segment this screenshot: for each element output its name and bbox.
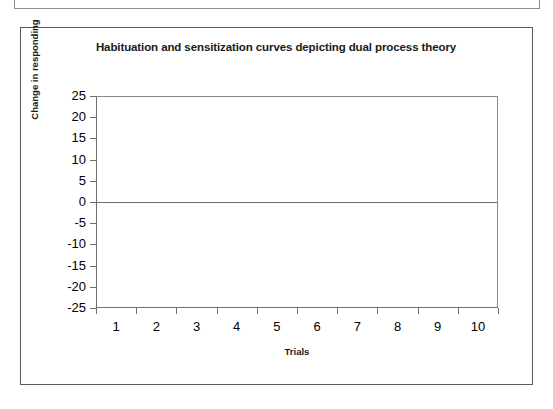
y-tick-label: -20 [67, 278, 86, 296]
x-tick-label: 1 [96, 318, 136, 336]
x-tick-mark [337, 308, 338, 314]
x-tick-label: 6 [297, 318, 337, 336]
x-tick-mark [217, 308, 218, 314]
x-tick-label: 5 [257, 318, 297, 336]
y-tick-label: -25 [67, 299, 86, 317]
figure-frame: Habituation and sensitization curves dep… [20, 27, 533, 385]
x-tick-mark [377, 308, 378, 314]
x-tick-label: 8 [378, 318, 418, 336]
y-tick-label: 5 [79, 172, 86, 190]
x-tick-mark [458, 308, 459, 314]
x-tick-label: 7 [337, 318, 377, 336]
x-tick-label: 10 [458, 318, 498, 336]
x-tick-mark [136, 308, 137, 314]
y-tick-label: 20 [72, 108, 86, 126]
y-tick-label: 25 [72, 87, 86, 105]
y-tick-label: -5 [74, 214, 86, 232]
plot-area [96, 96, 498, 308]
x-tick-mark [498, 308, 499, 314]
zero-reference-line [97, 202, 497, 203]
y-axis-title: Change in responding [29, 0, 40, 140]
x-tick-label: 4 [217, 318, 257, 336]
x-tick-mark [297, 308, 298, 314]
y-tick-label: -10 [67, 235, 86, 253]
x-tick-mark [418, 308, 419, 314]
cut-off-box-above [14, 0, 540, 9]
x-tick-mark [176, 308, 177, 314]
y-tick-label: 10 [72, 151, 86, 169]
x-axis-title: Trials [96, 346, 498, 357]
x-tick-mark [96, 308, 97, 314]
y-tick-label: 0 [79, 193, 86, 211]
x-tick-label: 3 [177, 318, 217, 336]
x-tick-label: 9 [418, 318, 458, 336]
x-tick-label: 2 [136, 318, 176, 336]
y-tick-label: 15 [72, 129, 86, 147]
y-tick-label: -15 [67, 257, 86, 275]
x-tick-mark [257, 308, 258, 314]
chart-title: Habituation and sensitization curves dep… [61, 39, 491, 56]
